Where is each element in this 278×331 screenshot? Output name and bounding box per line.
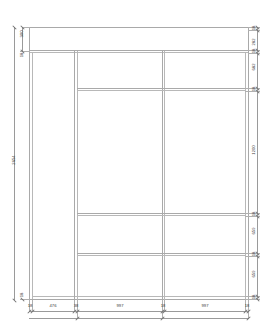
dim-right-659-b: 659 xyxy=(252,260,256,288)
right-dim-axis xyxy=(257,27,258,300)
dim-right-659-a: 659 xyxy=(252,217,256,245)
dim-bottom-997-b: 997 xyxy=(193,304,217,308)
bottom-tick-10 xyxy=(246,316,250,320)
dim-left-18-bottom: 18 xyxy=(20,289,24,301)
shelf-rail-659-a-inner xyxy=(77,255,245,256)
dim-bottom-38: 38 xyxy=(69,304,83,308)
shelf-rail-659-a xyxy=(77,253,245,254)
dim-bottom-997-a: 997 xyxy=(108,304,132,308)
dim-left-300: 300 xyxy=(20,22,24,46)
carcass-bottom-inner xyxy=(32,296,245,297)
dim-bottom-18-b: 18 xyxy=(157,304,169,308)
shelf-rail-1200-inner xyxy=(77,215,245,216)
bottom-dim-axis xyxy=(29,311,248,312)
dim-right-18-d: 18 xyxy=(252,248,256,260)
left-column-divider-outer xyxy=(74,51,75,300)
shelf-rail-682-inner xyxy=(77,90,245,91)
dim-right-18-e: 18 xyxy=(252,291,256,303)
bottom-dim-axis-2 xyxy=(29,318,248,319)
dim-bottom-18-a: 18 xyxy=(24,304,36,308)
shelf-rail-1200 xyxy=(77,213,245,214)
top-band-left-edge xyxy=(29,27,30,51)
carcass-bottom-outer xyxy=(29,299,248,300)
dim-bottom-18-c: 18 xyxy=(241,304,253,308)
carcass-left-outer xyxy=(29,51,30,300)
cabinet-top-edge xyxy=(29,27,248,28)
dim-left-2654: 2654 xyxy=(12,140,16,180)
left-tick-overall-top xyxy=(12,25,16,29)
shelf-rail-682 xyxy=(77,88,245,89)
left-tick-overall-bottom xyxy=(12,298,16,302)
dim-right-1200: 1200 xyxy=(252,133,256,167)
dim-right-18-b: 18 xyxy=(252,83,256,95)
carcass-left-inner xyxy=(32,52,33,299)
carcass-right-inner xyxy=(245,52,246,299)
top-band-bottom-rail xyxy=(29,50,248,51)
drawing-canvas: 300 18 2654 18 18 282 18 682 18 1200 18 … xyxy=(0,0,278,331)
dim-left-18: 18 xyxy=(20,49,24,61)
dim-bottom-476: 476 xyxy=(41,304,65,308)
top-band-bottom-rail-inner xyxy=(29,52,248,53)
dim-right-682: 682 xyxy=(252,53,256,81)
